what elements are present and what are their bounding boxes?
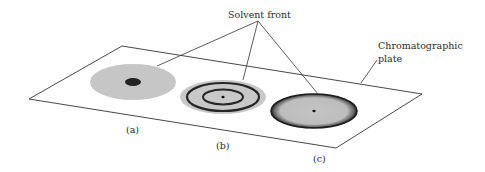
spot-c [271,94,357,128]
spot-b [180,80,266,114]
spot-a [90,64,176,100]
plate-label-line1: Chromatographic [378,40,463,51]
chromatography-diagram: Solvent front Chromatographic plate (a) … [0,0,485,172]
label-c: (c) [313,153,326,164]
label-b: (b) [216,140,230,151]
plate-leader [361,60,377,83]
label-a: (a) [126,124,139,135]
solvent-front-label: Solvent front [228,9,291,20]
plate-label-line2: plate [378,53,403,64]
